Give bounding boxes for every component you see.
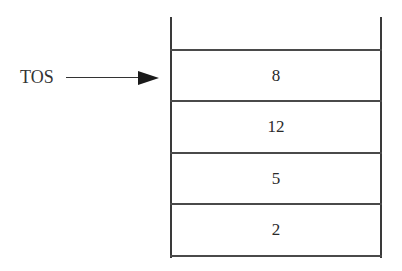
stack-cell: 12	[172, 102, 380, 152]
stack-bottom	[170, 255, 382, 257]
tos-label: TOS	[20, 67, 54, 88]
stack-value: 8	[272, 66, 281, 86]
stack-right-wall	[380, 17, 382, 258]
stack-cell-top: 8	[172, 51, 380, 100]
stack-cell-bottom: 2	[172, 205, 380, 255]
arrow-head-icon	[138, 71, 159, 85]
stack-value: 2	[272, 220, 281, 240]
arrow-shaft	[66, 77, 142, 78]
stack-cell: 5	[172, 154, 380, 203]
stack-value: 5	[272, 169, 281, 189]
stack-value: 12	[268, 117, 285, 137]
